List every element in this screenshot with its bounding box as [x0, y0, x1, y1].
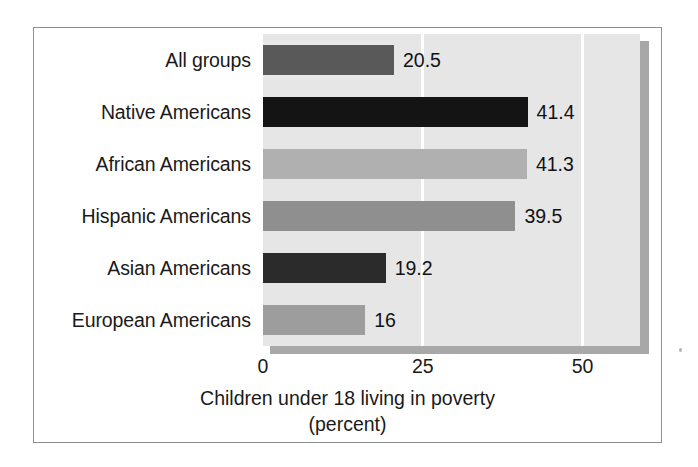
plot-panel-shadow-right: [640, 41, 649, 353]
x-axis-title-line2: (percent): [34, 411, 661, 437]
category-label: European Americans: [72, 298, 251, 342]
bar-value-label: 16: [374, 305, 396, 335]
x-tick-label: 0: [258, 355, 269, 378]
gridline: [421, 34, 424, 346]
bar-value-label: 41.4: [537, 97, 575, 127]
bar: [263, 97, 528, 127]
scan-artifact-speck: [679, 348, 682, 352]
x-axis-ticks: 02550: [263, 355, 653, 383]
plot-panel: 20.541.441.339.519.216: [263, 34, 640, 346]
bar-chart: All groupsNative AmericansAfrican Americ…: [34, 28, 661, 442]
bar: [263, 305, 365, 335]
category-label: Asian Americans: [107, 246, 251, 290]
bar-value-label: 41.3: [536, 149, 574, 179]
plot-panel-shadow-bottom: [270, 346, 649, 354]
bar: [263, 253, 386, 283]
category-label: Hispanic Americans: [82, 194, 251, 238]
category-label: Native Americans: [101, 90, 251, 134]
bar-value-label: 39.5: [524, 201, 562, 231]
bar-value-label: 19.2: [395, 253, 433, 283]
x-axis-title-line1: Children under 18 living in poverty: [200, 387, 495, 409]
x-tick-label: 50: [572, 355, 594, 378]
x-axis-title: Children under 18 living in poverty (per…: [34, 385, 661, 437]
bar: [263, 149, 527, 179]
bar: [263, 45, 394, 75]
category-label: All groups: [165, 38, 251, 82]
bar: [263, 201, 515, 231]
category-label: African Americans: [96, 142, 251, 186]
category-axis: All groupsNative AmericansAfrican Americ…: [34, 34, 259, 344]
figure-frame: All groupsNative AmericansAfrican Americ…: [33, 27, 662, 443]
bar-value-label: 20.5: [403, 45, 441, 75]
x-tick-label: 25: [412, 355, 434, 378]
gridline: [581, 34, 584, 346]
